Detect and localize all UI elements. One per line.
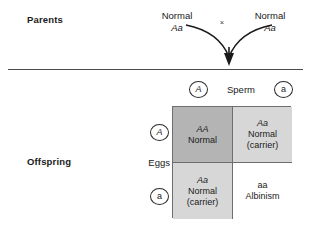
sperm-gamete-A: A — [189, 81, 208, 98]
sperm-gamete-a: a — [274, 81, 293, 98]
egg-gamete-a: a — [150, 188, 169, 205]
punnett-square-figure: Parents Normal Aa × Normal Aa A Sperm a … — [0, 0, 311, 235]
sperm-header: A Sperm a — [189, 79, 293, 99]
cell-note: (carrier) — [187, 197, 219, 208]
punnett-grid: AA Normal Aa Normal (carrier) Aa Normal … — [172, 106, 291, 218]
cell-genotype: aa — [257, 180, 267, 191]
egg-gamete-A: A — [150, 124, 169, 141]
sperm-label: Sperm — [227, 84, 255, 95]
cell-phenotype: Normal — [188, 186, 217, 197]
punnett-cell-Aa-bottom: Aa Normal (carrier) — [173, 163, 233, 219]
cell-genotype: AA — [196, 124, 208, 135]
punnett-cell-aa: aa Albinism — [233, 163, 292, 219]
cell-genotype: Aa — [197, 175, 208, 186]
punnett-cell-Aa-top: Aa Normal (carrier) — [233, 107, 292, 163]
offspring-row-label: Offspring — [27, 156, 71, 167]
cell-note: (carrier) — [247, 140, 279, 151]
parents-row-label: Parents — [27, 14, 63, 25]
eggs-label: Eggs — [138, 157, 170, 168]
cell-phenotype: Albinism — [245, 191, 279, 202]
cell-phenotype: Normal — [248, 129, 277, 140]
cell-genotype: Aa — [257, 118, 268, 129]
cross-arrow-icon — [184, 19, 274, 67]
section-divider — [8, 69, 303, 70]
cell-phenotype: Normal — [188, 135, 217, 146]
punnett-cell-AA: AA Normal — [173, 107, 233, 163]
